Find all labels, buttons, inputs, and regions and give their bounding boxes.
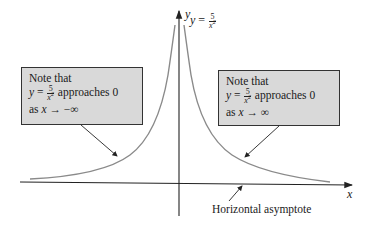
equation-denominator: x2 — [209, 22, 216, 30]
note-right-as: as — [226, 106, 236, 118]
right-note-pointer-arrow — [245, 126, 279, 157]
function-equation-label: y = 5 x2 — [190, 13, 217, 30]
x-axis — [20, 182, 352, 185]
note-box-right: Note that y = 5 x2 approaches 0 as x → ∞ — [218, 70, 340, 126]
note-right-line2: y = 5 x2 approaches 0 — [226, 88, 332, 105]
note-left-limit: −∞ — [64, 103, 79, 115]
figure-canvas: y x y = 5 x2 Note that y = 5 x2 approach… — [0, 0, 369, 225]
right-arrow-icon: → — [49, 103, 61, 115]
note-box-left: Note that y = 5 x2 approaches 0 as x → −… — [21, 67, 143, 125]
note-left-den-exp: 2 — [51, 91, 54, 97]
note-right-den-exp: 2 — [248, 94, 251, 100]
left-note-pointer-arrow — [81, 125, 117, 156]
note-left-lhs: y — [29, 86, 34, 98]
note-left-line2: y = 5 x2 approaches 0 — [29, 85, 135, 102]
note-left-var: x — [41, 103, 46, 115]
note-right-limit: ∞ — [261, 106, 269, 118]
note-right-var: x — [238, 106, 243, 118]
x-axis-label: x — [347, 187, 352, 202]
equation-denominator-exp: 2 — [213, 19, 216, 25]
note-left-line1: Note that — [29, 71, 135, 85]
equation-lhs: y — [190, 13, 195, 27]
note-right-fraction: 5 x2 — [244, 88, 251, 105]
note-left-tail: approaches 0 — [58, 86, 118, 98]
note-left-fraction: 5 x2 — [47, 85, 54, 102]
equation-equals: = — [198, 13, 205, 27]
note-left-eq: = — [37, 86, 44, 98]
note-right-tail: approaches 0 — [255, 89, 315, 101]
note-right-line1: Note that — [226, 74, 332, 88]
note-right-lhs: y — [226, 89, 231, 101]
note-left-as: as — [29, 103, 39, 115]
asymptote-pointer-arrow — [229, 186, 242, 201]
horizontal-asymptote-label: Horizontal asymptote — [212, 203, 311, 215]
note-left-denominator: x2 — [47, 94, 54, 102]
equation-fraction: 5 x2 — [209, 13, 216, 30]
note-right-line3: as x → ∞ — [226, 105, 332, 119]
note-right-eq: = — [234, 89, 241, 101]
note-right-denominator: x2 — [244, 97, 251, 105]
note-left-line3: as x → −∞ — [29, 102, 135, 116]
right-arrow-icon: → — [246, 106, 258, 118]
